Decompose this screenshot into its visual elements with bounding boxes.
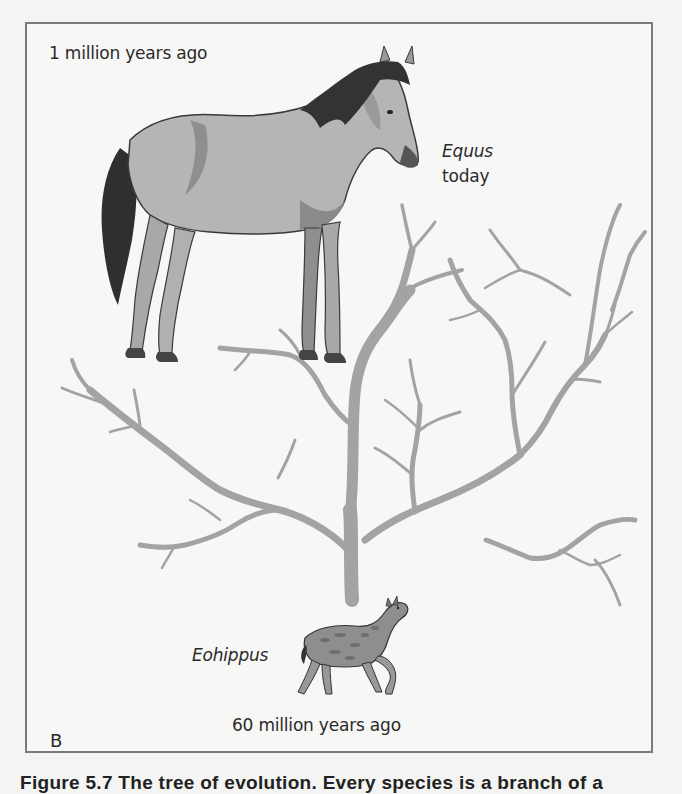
label-modern-time: today — [442, 166, 489, 186]
label-modern-genus: Equus — [442, 141, 493, 161]
label-bottom-time: 60 million years ago — [232, 715, 401, 735]
eohippus-icon — [298, 596, 408, 694]
figure-caption: Figure 5.7 The tree of evolution. Every … — [20, 772, 603, 794]
panel-label: B — [50, 730, 62, 751]
equus-horse-icon — [102, 46, 419, 363]
label-ancestor-genus: Eohippus — [192, 645, 268, 665]
label-top-time: 1 million years ago — [49, 43, 207, 63]
